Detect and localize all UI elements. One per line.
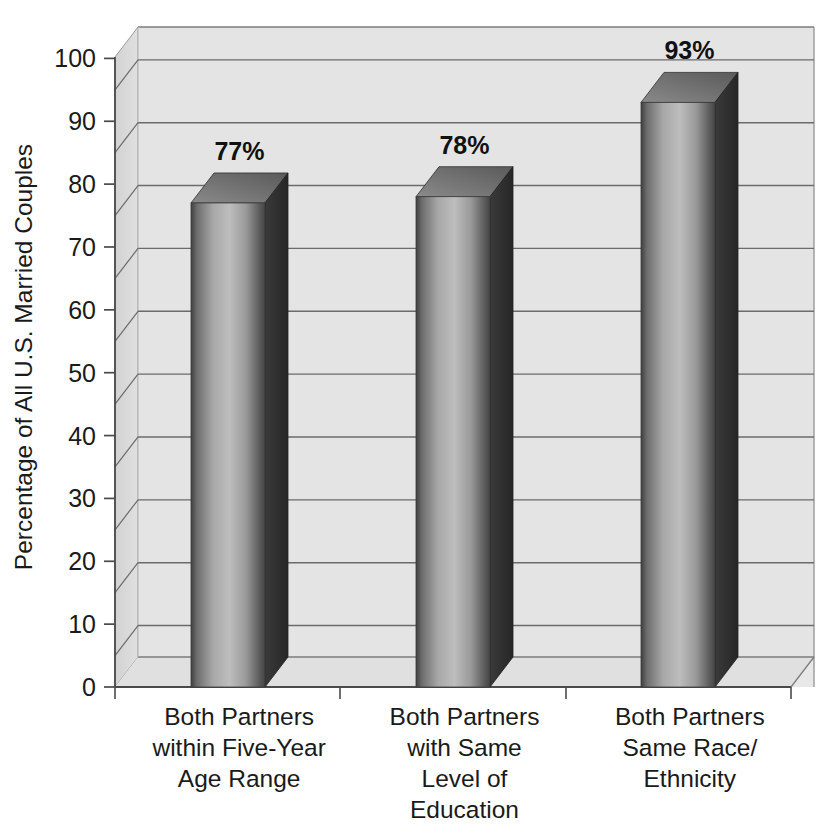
bar-chart-figure: 0102030405060708090100 77%78%93% Both Pa…: [0, 0, 831, 836]
y-tick-label: 50: [68, 359, 96, 387]
bar-front-face: [191, 203, 265, 687]
category-label-line: within Five-Year: [151, 734, 325, 761]
bar-side-face: [490, 167, 513, 687]
y-tick-label: 0: [82, 673, 96, 701]
y-tick-label: 100: [54, 44, 96, 72]
category-label-line: Level of: [422, 765, 508, 792]
bar-series-item: [416, 167, 513, 687]
y-tick-label: 70: [68, 233, 96, 261]
y-axis-title-label: Percentage of All U.S. Married Couples: [10, 144, 37, 570]
bar-value-label: 77%: [214, 137, 264, 165]
y-tick-label: 90: [68, 107, 96, 135]
category-label-line: with Same: [406, 734, 521, 761]
category-label-line: Education: [410, 796, 519, 823]
y-tick-label: 40: [68, 422, 96, 450]
bar-side-face: [715, 72, 738, 687]
category-label-line: Both Partners: [615, 703, 765, 730]
y-tick-label: 60: [68, 296, 96, 324]
y-tick-label: 20: [68, 547, 96, 575]
y-tick-label: 30: [68, 484, 96, 512]
bar-side-face: [265, 173, 288, 687]
bar-series-item: [641, 72, 738, 687]
bar-value-label: 78%: [439, 131, 489, 159]
y-axis-title: Percentage of All U.S. Married Couples: [10, 144, 37, 570]
category-label-line: Ethnicity: [644, 765, 737, 792]
bar-series-item: [191, 173, 288, 687]
bar-front-face: [641, 102, 715, 687]
y-tick-label: 10: [68, 610, 96, 638]
chart-canvas: 0102030405060708090100 77%78%93% Both Pa…: [0, 0, 831, 836]
bar-front-face: [416, 197, 490, 687]
bar-value-label: 93%: [664, 36, 714, 64]
category-label-line: Same Race/: [622, 734, 757, 761]
category-label-line: Both Partners: [390, 703, 540, 730]
category-label: Both Partnerswithin Five-YearAge Range: [151, 703, 325, 792]
y-tick-label: 80: [68, 170, 96, 198]
category-label-line: Age Range: [178, 765, 301, 792]
category-label-line: Both Partners: [164, 703, 314, 730]
